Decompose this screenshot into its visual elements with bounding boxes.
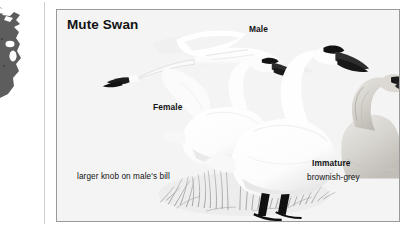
label-male: Male — [249, 24, 268, 34]
swan-illustration — [57, 10, 399, 221]
label-female: Female — [153, 102, 182, 112]
field-guide-plate: Mute Swan Male Female Immature brownish-… — [0, 0, 411, 231]
label-immature: Immature — [312, 158, 351, 168]
label-knob-note: larger knob on male's bill — [77, 172, 170, 181]
vertical-divider — [44, 2, 45, 224]
label-immature-note: brownish-grey — [307, 173, 360, 182]
illustration-panel: Mute Swan Male Female Immature brownish-… — [56, 9, 400, 222]
page-title: Mute Swan — [67, 17, 138, 32]
distribution-map-fragment — [0, 6, 36, 98]
